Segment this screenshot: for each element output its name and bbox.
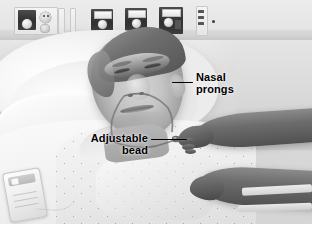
callout-adjustable-bead-line2: bead <box>60 145 148 157</box>
leader-line-nasal-prongs <box>172 82 193 83</box>
annotated-clinical-photograph: Nasal prongs Adjustable bead <box>0 0 312 227</box>
bottom-page-margin <box>0 224 312 227</box>
callout-nasal-prongs-line1: Nasal <box>196 72 234 84</box>
callout-nasal-prongs-line2: prongs <box>196 84 234 96</box>
callout-adjustable-bead: Adjustable bead <box>60 133 148 156</box>
callout-nasal-prongs: Nasal prongs <box>196 72 234 95</box>
leader-line-adjustable-bead <box>151 139 187 140</box>
callout-adjustable-bead-line1: Adjustable <box>60 133 148 145</box>
annotation-layer: Nasal prongs Adjustable bead <box>0 0 312 227</box>
